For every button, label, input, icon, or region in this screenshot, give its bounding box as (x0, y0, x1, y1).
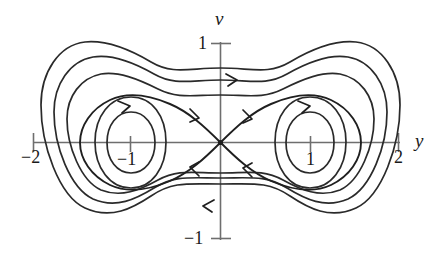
tick-label-y-neg-two: −2 (21, 148, 40, 166)
tick-label-y-pos-two: 2 (394, 148, 403, 166)
tick-label-v-neg-one: −1 (184, 229, 203, 247)
phase-portrait-figure: v y 1 −1 −2 −1 1 2 (0, 0, 443, 255)
saddle-point-marker (218, 140, 223, 145)
arrow-bottom-separatrix-left (203, 200, 214, 212)
arrow-left-well-clockwise (118, 101, 130, 113)
tick-label-y-neg-one: −1 (117, 150, 136, 168)
tick-label-v-pos-one: 1 (198, 34, 207, 52)
axis-label-y: y (415, 131, 423, 150)
arrow-right-well-clockwise (298, 101, 310, 113)
axes-group (33, 42, 400, 240)
tick-label-y-pos-one: 1 (306, 150, 315, 168)
phase-portrait-canvas (0, 0, 443, 255)
axis-label-v: v (215, 9, 223, 28)
